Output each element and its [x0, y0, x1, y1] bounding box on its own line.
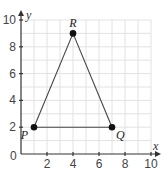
segment-PR [34, 33, 73, 127]
point-R [70, 30, 77, 37]
origin-label: 0 [10, 149, 17, 163]
x-tick-label: 6 [96, 157, 103, 171]
x-tick-label: 4 [70, 157, 77, 171]
x-tick-label: 2 [44, 157, 51, 171]
point-label-Q: Q [116, 128, 125, 142]
y-tick-label: 4 [9, 93, 16, 107]
y-tick-label: 10 [3, 13, 17, 27]
y-tick-label: 8 [9, 40, 16, 54]
coordinate-grid-diagram: x y 0 246810246810 PRQ [0, 0, 164, 171]
point-label-R: R [68, 16, 77, 30]
point-Q [109, 124, 116, 131]
x-tick-label: 8 [122, 157, 129, 171]
x-axis-label: x [152, 139, 159, 153]
y-tick-label: 6 [9, 67, 16, 81]
ticks: 246810246810 [3, 13, 158, 171]
point-label-P: P [20, 128, 29, 142]
segment-RQ [73, 33, 112, 127]
y-axis-label: y [25, 8, 32, 22]
y-tick-label: 2 [9, 120, 16, 134]
point-P [31, 124, 38, 131]
y-axis-arrow-icon [18, 10, 24, 16]
x-tick-label: 10 [144, 157, 158, 171]
grid [21, 20, 151, 154]
